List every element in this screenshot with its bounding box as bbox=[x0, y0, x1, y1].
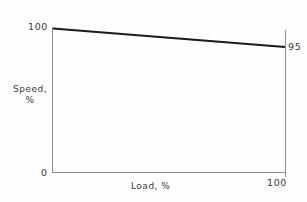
y-axis-title-line-1: Speed, bbox=[11, 84, 49, 94]
y-axis-title: Speed, % bbox=[11, 84, 49, 105]
origin-label: 0 bbox=[41, 168, 47, 178]
y-axis-title-line-2: % bbox=[11, 95, 49, 105]
data-line-speed-droop bbox=[53, 29, 285, 48]
x-axis-title: Load, % bbox=[131, 181, 170, 191]
series-end-value-label: 95 bbox=[288, 42, 301, 52]
speed-load-chart: 100 95 0 100 Speed, % Load, % bbox=[0, 0, 307, 202]
y-axis-max-label: 100 bbox=[28, 22, 48, 32]
x-axis-max-label: 100 bbox=[267, 178, 287, 188]
